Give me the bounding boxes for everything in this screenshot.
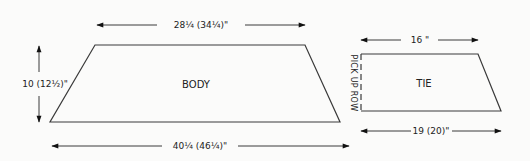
tie-top-width-dimension: 16 " <box>361 35 478 45</box>
body-label: BODY <box>182 79 211 90</box>
body-top-width-dimension: 28¼ (34¼)" <box>97 20 305 30</box>
tie-top-width-label: 16 " <box>411 35 429 45</box>
body-bottom-width-label: 40¼ (46¼)" <box>173 141 227 151</box>
tie-bottom-width-dimension: 19 (20)" <box>361 126 501 136</box>
tie-bottom-width-label: 19 (20)" <box>413 126 450 136</box>
body-height-dimension: 10 (12½)" <box>22 46 68 122</box>
body-piece: BODY <box>50 45 340 122</box>
body-top-width-label: 28¼ (34¼)" <box>174 20 228 30</box>
pick-up-row-label: PICK UP ROW <box>349 55 358 112</box>
schematic-canvas: BODY 28¼ (34¼)" 10 (12½)" 40¼ (46¼)" TIE… <box>0 0 530 161</box>
body-bottom-width-dimension: 40¼ (46¼)" <box>52 141 349 151</box>
tie-label: TIE <box>415 78 431 89</box>
tie-piece: TIE PICK UP ROW <box>349 54 501 111</box>
body-height-label: 10 (12½)" <box>22 79 68 89</box>
